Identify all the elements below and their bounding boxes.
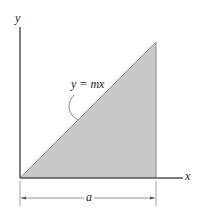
diagram-canvas (0, 0, 210, 222)
dimension-arrow-left-icon (21, 197, 26, 200)
curve-equation-label: y = mx (70, 78, 105, 90)
label-leader-curve (69, 95, 78, 120)
x-axis-label: x (185, 170, 190, 182)
y-axis-label: y (15, 12, 20, 24)
triangle-area-diagram: y x y = mx a (0, 0, 210, 222)
dimension-label: a (84, 191, 94, 203)
dimension-arrow-right-icon (150, 197, 155, 200)
